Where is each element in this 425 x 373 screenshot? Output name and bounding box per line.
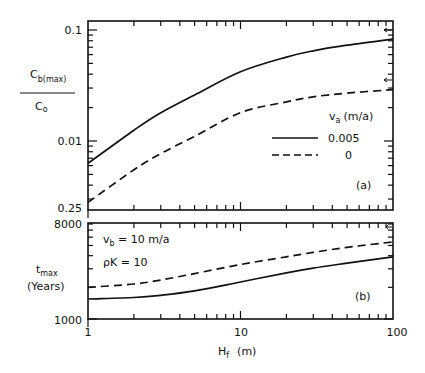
figure: Cb(max) Co 0.1 0.01 0.25 va(m/a) 0.005 0… <box>0 0 425 373</box>
panel-b-ylabel-unit: (Years) <box>27 280 65 293</box>
panel-b-ytick-1000: 1000 <box>54 314 82 327</box>
annotation-rhok: ρK = 10 <box>103 256 147 269</box>
panel-a-series-dashed <box>88 90 393 203</box>
panel-a-ytick-bottom: 0.25 <box>58 202 83 215</box>
panel-a-tag: (a) <box>356 179 371 192</box>
legend-dashed-label: 0 <box>345 149 352 162</box>
panel-b-ytick-8000: 8000 <box>54 218 82 231</box>
panel-a-ylabel-numerator: Cb(max) <box>30 68 66 84</box>
x-axis-label: Hf(m) <box>218 345 256 360</box>
annotation-vb: vb = 10 m/a <box>103 233 169 248</box>
panel-a-ylabel-denominator: Co <box>35 100 48 114</box>
arrow-icon <box>386 225 392 229</box>
xtick-1: 1 <box>85 326 92 339</box>
panel-a-ytick-0.01: 0.01 <box>58 135 83 148</box>
xtick-10: 10 <box>234 326 248 339</box>
legend-title: va(m/a) <box>329 110 373 125</box>
legend-solid-label: 0.005 <box>328 132 360 145</box>
panel-b-tag: (b) <box>355 290 371 303</box>
panel-b-curves <box>88 242 393 299</box>
panel-a-ytick-0.1: 0.1 <box>65 24 83 37</box>
panel-b-ylabel: tmax <box>36 263 58 278</box>
arrow-icon <box>384 78 392 82</box>
arrow-icon <box>384 28 392 32</box>
xtick-100: 100 <box>387 326 408 339</box>
